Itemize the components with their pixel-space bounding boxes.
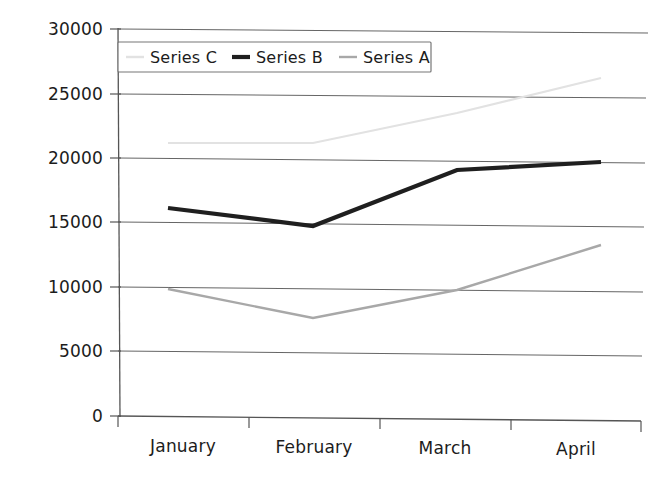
legend-label-series-c: Series C: [150, 48, 217, 67]
y-tick-label-15000: 15000: [48, 212, 103, 232]
y-tick-label-20000: 20000: [48, 148, 103, 168]
x-tick-label-march: March: [419, 438, 472, 458]
x-tick-label-january: January: [149, 436, 216, 456]
legend[interactable]: Series C Series B Series A: [118, 42, 431, 72]
line-chart: 30000 25000 20000 15000 10000 5000 0 Jan…: [0, 0, 669, 484]
y-tick-label-5000: 5000: [59, 341, 103, 361]
y-tick-label-0: 0: [92, 406, 103, 426]
y-tick-label-30000: 30000: [48, 19, 103, 39]
x-tick-label-february: February: [276, 437, 353, 457]
legend-label-series-b: Series B: [256, 48, 323, 67]
y-tick-label-25000: 25000: [48, 84, 103, 104]
chart-canvas: 30000 25000 20000 15000 10000 5000 0 Jan…: [0, 0, 669, 484]
legend-label-series-a: Series A: [363, 48, 430, 67]
x-tick-label-april: April: [556, 439, 596, 459]
y-tick-label-10000: 10000: [48, 277, 103, 297]
